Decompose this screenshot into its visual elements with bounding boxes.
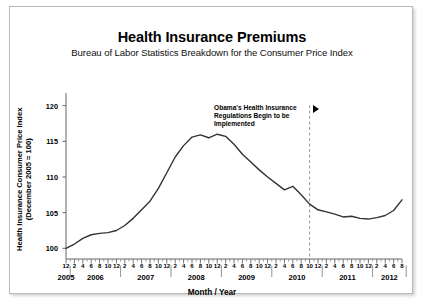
annotation-line3: Implemented [214, 120, 319, 128]
x-year-label: 2011 [327, 273, 367, 282]
x-year-label: 2012 [369, 273, 409, 282]
y-tick-label: 115 [36, 137, 58, 146]
data-line-health-insurance-cpi [66, 134, 402, 248]
x-year-label: 2006 [75, 273, 115, 282]
chart-card: Health Insurance Premiums Bureau of Labo… [9, 6, 413, 294]
x-year-label: 2010 [277, 273, 317, 282]
right-triangle-icon [313, 105, 319, 113]
plot-area: 1001051101151201224681012246810122468101… [10, 7, 414, 295]
x-year-label: 2007 [126, 273, 166, 282]
chart-svg [10, 7, 414, 295]
annotation-text: Obama's Health Insurance Regulations Beg… [214, 104, 319, 128]
y-tick-label: 105 [36, 209, 58, 218]
x-year-label: 2008 [176, 273, 216, 282]
y-tick-label: 120 [36, 102, 58, 111]
x-month-label: 8 [395, 262, 409, 269]
x-year-label: 2009 [227, 273, 267, 282]
annotation-line2: Regulations Begin to be [214, 112, 319, 120]
y-tick-label: 100 [36, 244, 58, 253]
annotation-line1: Obama's Health Insurance [214, 104, 319, 112]
y-tick-label: 110 [36, 173, 58, 182]
